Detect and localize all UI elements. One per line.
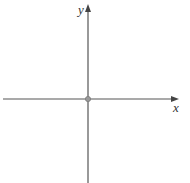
x-axis-label: x <box>173 101 179 114</box>
axes-graphic <box>0 0 190 183</box>
y-axis-arrow-icon <box>85 4 91 12</box>
coordinate-plane: y x <box>0 0 190 183</box>
y-axis-label: y <box>78 3 84 16</box>
origin-point-icon <box>85 96 90 101</box>
